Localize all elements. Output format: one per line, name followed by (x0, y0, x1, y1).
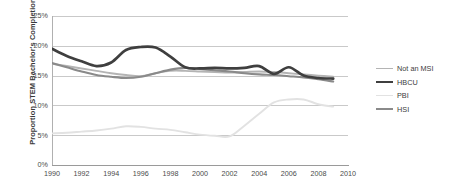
y-axis-tick-labels: 0%5%10%15%20%25% (16, 0, 48, 194)
series-lines (52, 16, 348, 166)
legend-item-hbcu[interactable]: HBCU (376, 76, 452, 90)
legend-swatch-icon (376, 108, 393, 110)
y-tick-label: 15% (18, 72, 48, 79)
legend-item-label: HSI (397, 106, 409, 113)
chart-legend: Not an MSIHBCUPBIHSI (376, 62, 452, 116)
y-tick-label: 10% (18, 102, 48, 109)
x-tick-label: 2010 (331, 170, 365, 177)
series-line-pbi (52, 99, 333, 137)
x-axis-tick-labels: 1990199219941996199820002002200420062008… (0, 170, 452, 184)
y-tick-label: 25% (18, 12, 48, 19)
legend-swatch-icon (376, 68, 393, 69)
legend-item-hsi[interactable]: HSI (376, 103, 452, 117)
y-tick-label: 20% (18, 42, 48, 49)
legend-item-not-an-msi[interactable]: Not an MSI (376, 62, 452, 76)
legend-swatch-icon (376, 95, 393, 96)
legend-swatch-icon (376, 81, 393, 83)
legend-item-label: PBI (397, 92, 409, 99)
y-tick-label: 0% (18, 161, 48, 168)
legend-item-pbi[interactable]: PBI (376, 89, 452, 103)
y-tick-label: 5% (18, 132, 48, 139)
legend-item-label: HBCU (397, 79, 418, 86)
chart-container: Proportion STEM Bachelor's Completions 0… (0, 0, 452, 194)
legend-item-label: Not an MSI (397, 65, 434, 72)
